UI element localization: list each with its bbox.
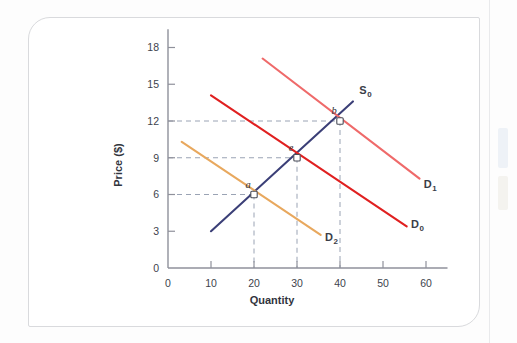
y-axis-tick-label: 6 (153, 188, 159, 200)
curve-label-s0: S0 (359, 84, 372, 99)
curve-labels-group: S0D0D1D2 (325, 84, 437, 246)
x-axis-tick-label: 0 (165, 277, 171, 289)
y-axis-tick-label: 0 (153, 262, 159, 274)
x-axis-title: Quantity (250, 294, 295, 306)
supply-demand-chart: 03691215180102030405060 aeb S0D0D1D2 Qua… (0, 0, 517, 343)
x-axis-tick-label: 20 (248, 277, 260, 289)
x-axis-tick-label: 40 (334, 277, 346, 289)
x-axis-tick-label: 30 (291, 277, 303, 289)
x-axis-tick-label: 60 (420, 277, 432, 289)
y-axis-tick-label: 3 (153, 225, 159, 237)
point-marker-e (294, 155, 300, 161)
point-label-e: e (289, 142, 294, 153)
point-label-a: a (245, 179, 250, 190)
x-axis-tick-label: 10 (205, 277, 217, 289)
curve-d0 (211, 95, 407, 226)
y-axis-title: Price ($) (112, 143, 124, 187)
point-marker-b (337, 118, 343, 124)
curve-label-d1: D1 (424, 178, 437, 193)
y-axis-tick-label: 15 (147, 78, 159, 90)
y-axis-tick-label: 12 (147, 115, 159, 127)
x-axis-tick-label: 50 (377, 277, 389, 289)
point-label-b: b (331, 105, 336, 116)
curves-group (182, 59, 420, 235)
curve-label-d2: D2 (325, 231, 338, 246)
curve-label-d0: D0 (411, 218, 424, 233)
chart-canvas: 03691215180102030405060 aeb S0D0D1D2 Qua… (0, 0, 517, 343)
y-axis-tick-label: 18 (147, 41, 159, 53)
point-marker-a (251, 191, 257, 197)
y-axis-tick-label: 9 (153, 152, 159, 164)
